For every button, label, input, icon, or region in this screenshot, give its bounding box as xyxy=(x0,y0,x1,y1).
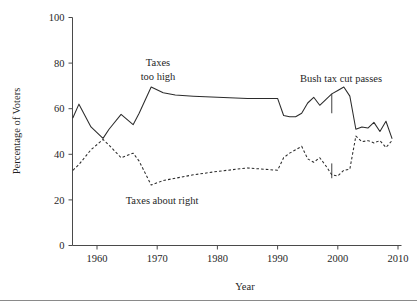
y-axis-ticks: 020406080100 xyxy=(49,12,73,251)
y-axis-title: Percentage of Voters xyxy=(11,88,22,175)
x-axis-ticks: 196019701980199020002010 xyxy=(87,246,409,264)
chart-figure: 020406080100 196019701980199020002010 Pe… xyxy=(0,0,417,308)
annotation-taxes-too-high-line1: Taxes xyxy=(146,57,170,68)
annotation-bush-tax-cut: Bush tax cut passes xyxy=(300,73,382,84)
x-tick-label: 1980 xyxy=(207,253,228,264)
y-tick-label: 100 xyxy=(49,12,65,23)
series-taxes-about-right xyxy=(73,136,392,185)
x-tick-label: 1970 xyxy=(147,253,168,264)
series-taxes-too-high xyxy=(73,87,392,138)
x-tick-label: 1960 xyxy=(87,253,108,264)
x-axis-title: Year xyxy=(235,281,255,292)
y-tick-label: 40 xyxy=(54,149,65,160)
chart-series xyxy=(73,87,392,185)
annotation-taxes-about-right: Taxes about right xyxy=(126,195,199,206)
y-tick-label: 60 xyxy=(54,103,65,114)
x-tick-label: 2010 xyxy=(388,253,409,264)
chart-axes xyxy=(73,18,402,246)
footer-divider xyxy=(0,300,417,301)
x-tick-label: 1990 xyxy=(267,253,288,264)
line-chart: 020406080100 196019701980199020002010 Pe… xyxy=(0,0,417,308)
y-tick-label: 80 xyxy=(54,58,65,69)
annotation-taxes-too-high-line2: too high xyxy=(141,71,176,82)
x-tick-label: 2000 xyxy=(327,253,348,264)
y-tick-label: 0 xyxy=(59,240,64,251)
y-tick-label: 20 xyxy=(54,195,65,206)
